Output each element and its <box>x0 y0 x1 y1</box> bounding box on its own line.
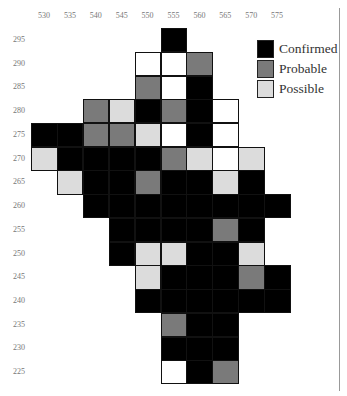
grid-cell-possible <box>186 147 213 171</box>
grid-cell-possible <box>135 123 162 147</box>
x-tick-label: 540 <box>83 11 109 20</box>
grid-cell-confirmed <box>161 218 188 242</box>
y-tick-label: 295 <box>8 35 30 44</box>
grid-cell-confirmed <box>186 337 213 361</box>
grid-cell-confirmed <box>57 123 84 147</box>
legend-swatch-confirmed <box>257 40 274 58</box>
grid-cell-confirmed <box>186 265 213 289</box>
x-tick-label: 530 <box>31 11 57 20</box>
grid-cell-confirmed <box>264 265 291 289</box>
grid-cell-confirmed <box>212 289 239 313</box>
x-tick-label: 575 <box>264 11 290 20</box>
y-tick-label: 225 <box>8 367 30 376</box>
grid-cell-possible <box>212 170 239 194</box>
grid-cell-none <box>161 76 188 100</box>
grid-cell-probable <box>83 99 110 123</box>
y-tick-label: 235 <box>8 320 30 329</box>
legend-label-confirmed: Confirmed <box>279 40 338 58</box>
grid-cell-confirmed <box>161 289 188 313</box>
grid-cell-confirmed <box>238 289 265 313</box>
grid-cell-possible <box>238 242 265 266</box>
y-tick-label: 275 <box>8 130 30 139</box>
x-tick-label: 555 <box>161 11 187 20</box>
grid-cell-none <box>212 123 239 147</box>
grid-cell-possible <box>31 147 58 171</box>
grid-cell-confirmed <box>57 147 84 171</box>
grid-cell-confirmed <box>161 265 188 289</box>
grid-cell-confirmed <box>186 289 213 313</box>
y-tick-label: 265 <box>8 177 30 186</box>
grid-cell-confirmed <box>186 313 213 337</box>
grid-cell-confirmed <box>109 194 136 218</box>
grid-cell-probable <box>135 170 162 194</box>
grid-cell-probable <box>238 265 265 289</box>
grid-cell-confirmed <box>186 218 213 242</box>
y-tick-label: 250 <box>8 249 30 258</box>
grid-cell-confirmed <box>83 194 110 218</box>
x-tick-label: 535 <box>57 11 83 20</box>
y-tick-label: 290 <box>8 59 30 68</box>
legend-swatch-probable <box>257 60 274 78</box>
grid-cell-confirmed <box>238 170 265 194</box>
grid-cell-confirmed <box>109 242 136 266</box>
grid-cell-confirmed <box>212 265 239 289</box>
grid-cell-confirmed <box>186 76 213 100</box>
grid-cell-possible <box>135 265 162 289</box>
grid-cell-confirmed <box>161 170 188 194</box>
grid-cell-none <box>135 52 162 76</box>
grid-cell-none <box>161 52 188 76</box>
grid-cell-none <box>161 360 188 384</box>
legend-label-probable: Probable <box>279 60 327 78</box>
y-tick-label: 240 <box>8 296 30 305</box>
y-tick-label: 245 <box>8 272 30 281</box>
grid-cell-confirmed <box>264 194 291 218</box>
y-tick-label: 260 <box>8 201 30 210</box>
grid-cell-confirmed <box>83 147 110 171</box>
x-tick-label: 565 <box>212 11 238 20</box>
grid-cell-confirmed <box>238 194 265 218</box>
grid-cell-confirmed <box>135 194 162 218</box>
grid-cell-probable <box>212 360 239 384</box>
grid-cell-confirmed <box>161 194 188 218</box>
y-tick-label: 270 <box>8 154 30 163</box>
grid-cell-probable <box>212 218 239 242</box>
x-tick-label: 550 <box>135 11 161 20</box>
grid-cell-probable <box>161 313 188 337</box>
legend-label-possible: Possible <box>279 80 324 98</box>
grid-cell-confirmed <box>135 289 162 313</box>
grid-cell-confirmed <box>135 218 162 242</box>
breeding-grid-map: 530535540545550555560565570575 295290285… <box>0 0 347 396</box>
grid-cell-probable <box>83 123 110 147</box>
x-tick-label: 570 <box>238 11 264 20</box>
grid-cell-confirmed <box>212 337 239 361</box>
grid-cell-possible <box>161 242 188 266</box>
grid-cell-confirmed <box>161 28 188 52</box>
grid-cell-confirmed <box>109 170 136 194</box>
grid-cell-confirmed <box>186 99 213 123</box>
grid-cell-probable <box>161 147 188 171</box>
grid-cell-confirmed <box>161 337 188 361</box>
grid-cell-possible <box>135 242 162 266</box>
y-tick-label: 285 <box>8 82 30 91</box>
legend-swatch-possible <box>257 80 274 98</box>
grid-cell-confirmed <box>135 147 162 171</box>
page-divider-line <box>339 8 340 391</box>
grid-cell-none <box>161 123 188 147</box>
grid-cell-none <box>212 99 239 123</box>
grid-cell-confirmed <box>264 289 291 313</box>
x-tick-label: 560 <box>186 11 212 20</box>
grid-cell-confirmed <box>186 242 213 266</box>
grid-cell-confirmed <box>109 218 136 242</box>
grid-cell-confirmed <box>135 99 162 123</box>
grid-cell-probable <box>109 123 136 147</box>
grid-cell-confirmed <box>212 194 239 218</box>
grid-cell-possible <box>109 99 136 123</box>
grid-cell-probable <box>135 76 162 100</box>
grid-cell-probable <box>161 99 188 123</box>
y-tick-label: 255 <box>8 225 30 234</box>
grid-cell-possible <box>238 147 265 171</box>
grid-cell-confirmed <box>238 218 265 242</box>
grid-cell-confirmed <box>186 194 213 218</box>
y-tick-label: 230 <box>8 343 30 352</box>
grid-cell-confirmed <box>186 123 213 147</box>
